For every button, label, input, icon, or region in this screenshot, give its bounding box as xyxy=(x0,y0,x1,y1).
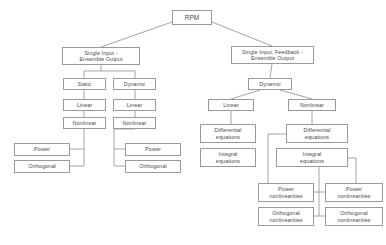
node-linear-3[interactable]: Linear xyxy=(208,99,254,111)
node-diff-eq-1[interactable]: Differential equations xyxy=(200,124,256,143)
node-nonlinear-3[interactable]: Nonlinear xyxy=(288,99,336,111)
node-power-nl-2[interactable]: Power nonlinearities xyxy=(325,183,383,202)
node-power-2[interactable]: Power xyxy=(125,143,181,156)
node-diff-eq-2[interactable]: Differential equations xyxy=(286,124,348,143)
node-orthogonal-2[interactable]: Orthogonal xyxy=(125,160,181,173)
node-static[interactable]: Static xyxy=(63,78,106,90)
node-orthogonal-nl-2[interactable]: Orthogonal nonlinearities xyxy=(325,207,383,226)
node-linear-2[interactable]: Linear xyxy=(113,99,156,111)
node-nonlinear-1[interactable]: Nonlinear xyxy=(63,117,106,129)
node-nonlinear-2[interactable]: Nonlinear xyxy=(113,117,156,129)
node-dynamic-r[interactable]: Dynamic xyxy=(248,78,292,90)
node-power-1[interactable]: Power xyxy=(14,143,70,156)
edge-rpm-to-si-eo xyxy=(101,22,172,47)
node-si-eo[interactable]: Single Input - Ensemble Output xyxy=(62,47,140,65)
edge-sif-eo-to-dynamicr xyxy=(270,64,272,78)
edge-dynamicr-to-nonlin3 xyxy=(280,90,312,99)
node-rpm[interactable]: RPM xyxy=(172,10,212,25)
edge-dynamicr-to-linear3 xyxy=(231,90,260,99)
node-sif-eo[interactable]: Single Input, Feedback - Ensemble Output xyxy=(231,46,314,64)
node-integ-eq-1[interactable]: Integral equations xyxy=(200,148,256,167)
node-dynamic-l[interactable]: Dynamic xyxy=(113,78,156,90)
node-integ-eq-2[interactable]: Integral equations xyxy=(276,148,348,167)
node-orthogonal-1[interactable]: Orthogonal xyxy=(14,160,70,173)
node-power-nl-1[interactable]: Power nonlinearities xyxy=(258,183,314,202)
node-orthogonal-nl-1[interactable]: Orthogonal nonlinearities xyxy=(258,207,314,226)
node-linear-1[interactable]: Linear xyxy=(63,99,106,111)
edge-rpm-to-sif-eo xyxy=(212,22,272,46)
diagram-canvas: RPMSingle Input - Ensemble OutputSingle … xyxy=(0,0,386,245)
